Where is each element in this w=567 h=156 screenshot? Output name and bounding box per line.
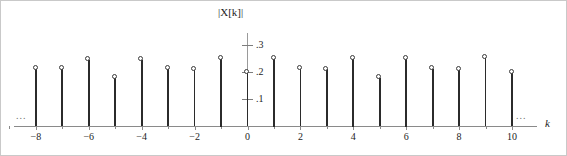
- stem-line: [114, 78, 116, 127]
- stem-line: [511, 72, 513, 126]
- stem-marker: [403, 55, 408, 60]
- stem-line: [458, 69, 460, 126]
- x-axis-label: k: [545, 117, 550, 129]
- stem-line: [220, 59, 222, 127]
- stem-line: [485, 58, 487, 127]
- x-tick-mark: [300, 126, 301, 130]
- x-tick-label: 0: [235, 132, 261, 142]
- x-minor-tick-mark: [9, 126, 10, 129]
- y-tick-label: .1: [256, 94, 264, 104]
- stem-marker: [33, 65, 38, 70]
- stem-line: [35, 68, 37, 126]
- stem-marker: [244, 69, 249, 74]
- stem-line: [141, 60, 143, 127]
- stem-line: [247, 72, 249, 126]
- stem-line: [61, 69, 63, 127]
- stem-marker: [218, 55, 223, 60]
- x-tick-mark: [195, 126, 196, 130]
- x-tick-mark: [248, 126, 249, 130]
- stem-line: [300, 69, 302, 127]
- y-axis-label: |X[k]|: [218, 6, 243, 18]
- y-tick-label: .3: [256, 40, 264, 50]
- stem-line: [167, 69, 169, 127]
- x-tick-mark: [89, 126, 90, 130]
- x-tick-label: 2: [287, 132, 313, 142]
- figure-container: |X[k]| k ... ... .1.2.3 −8−6−4−20246810: [0, 0, 567, 156]
- stem-plot: |X[k]| k ... ... .1.2.3 −8−6−4−20246810: [0, 0, 567, 156]
- y-tick-label: .2: [256, 67, 264, 77]
- x-tick-label: −6: [76, 132, 102, 142]
- stem-line: [379, 78, 381, 127]
- ellipsis-right: ...: [516, 110, 527, 121]
- x-tick-mark: [512, 126, 513, 130]
- stem-marker: [112, 74, 117, 79]
- x-tick-mark: [353, 126, 354, 130]
- x-tick-mark: [142, 126, 143, 130]
- stem-line: [352, 59, 354, 127]
- x-tick-label: 4: [340, 132, 366, 142]
- y-tick-mark: [242, 45, 253, 46]
- stem-line: [405, 59, 407, 127]
- x-tick-mark: [406, 126, 407, 130]
- stem-line: [194, 69, 196, 126]
- stem-marker: [271, 55, 276, 60]
- x-tick-label: 10: [499, 132, 525, 142]
- ellipsis-left: ...: [16, 110, 27, 121]
- x-tick-label: −4: [129, 132, 155, 142]
- x-tick-mark: [459, 126, 460, 130]
- stem-line: [273, 59, 275, 127]
- stem-line: [88, 60, 90, 127]
- x-tick-label: 8: [446, 132, 472, 142]
- x-tick-label: 6: [393, 132, 419, 142]
- x-tick-label: −8: [23, 132, 49, 142]
- stem-line: [432, 69, 434, 127]
- stem-marker: [456, 66, 461, 71]
- x-tick-label: −2: [182, 132, 208, 142]
- stem-marker: [350, 55, 355, 60]
- stem-marker: [509, 69, 514, 74]
- stem-line: [326, 69, 328, 126]
- x-tick-mark: [36, 126, 37, 130]
